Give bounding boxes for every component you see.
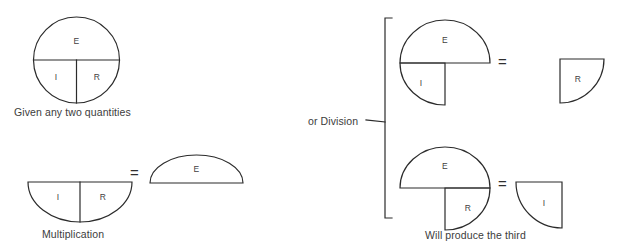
equals-sign-division-bottom: = bbox=[498, 176, 507, 191]
caption-multiplication: Multiplication bbox=[42, 228, 104, 240]
division-top-label-i: I bbox=[420, 78, 423, 88]
given-segment-label-i: I bbox=[55, 72, 58, 82]
division-bracket-outline bbox=[385, 18, 392, 218]
division-bottom-label-e: E bbox=[442, 161, 448, 171]
equals-sign-division-top: = bbox=[498, 54, 507, 69]
multiplication-result-label-e: E bbox=[194, 164, 200, 174]
given-circle-group: E I R bbox=[34, 17, 120, 103]
given-segment-label-e: E bbox=[74, 36, 80, 46]
division-bottom-result-label-i: I bbox=[543, 198, 546, 208]
division-top-result-quarter-r bbox=[560, 59, 604, 103]
division-bracket-pointer bbox=[366, 120, 385, 122]
division-bracket bbox=[366, 18, 392, 218]
diagram-canvas: E I R I R E E I bbox=[0, 0, 626, 251]
caption-or-division: or Division bbox=[308, 115, 358, 127]
division-top-label-e: E bbox=[442, 35, 448, 45]
equals-sign-multiplication: = bbox=[130, 165, 139, 180]
given-segment-label-r: R bbox=[94, 72, 100, 82]
multiplication-segment-label-r: R bbox=[100, 192, 106, 202]
division-top-quarter-i bbox=[400, 63, 445, 105]
division-bottom-result-quarter-i bbox=[516, 182, 562, 228]
multiplication-segment-label-i: I bbox=[57, 192, 60, 202]
division-bottom-label-r: R bbox=[465, 203, 471, 213]
caption-will-produce-the-third: Will produce the third bbox=[425, 229, 526, 241]
division-top-result-label-r: R bbox=[575, 74, 581, 84]
division-bottom-group: E R I bbox=[400, 147, 562, 230]
caption-given-any-two-quantities: Given any two quantities bbox=[14, 106, 131, 118]
